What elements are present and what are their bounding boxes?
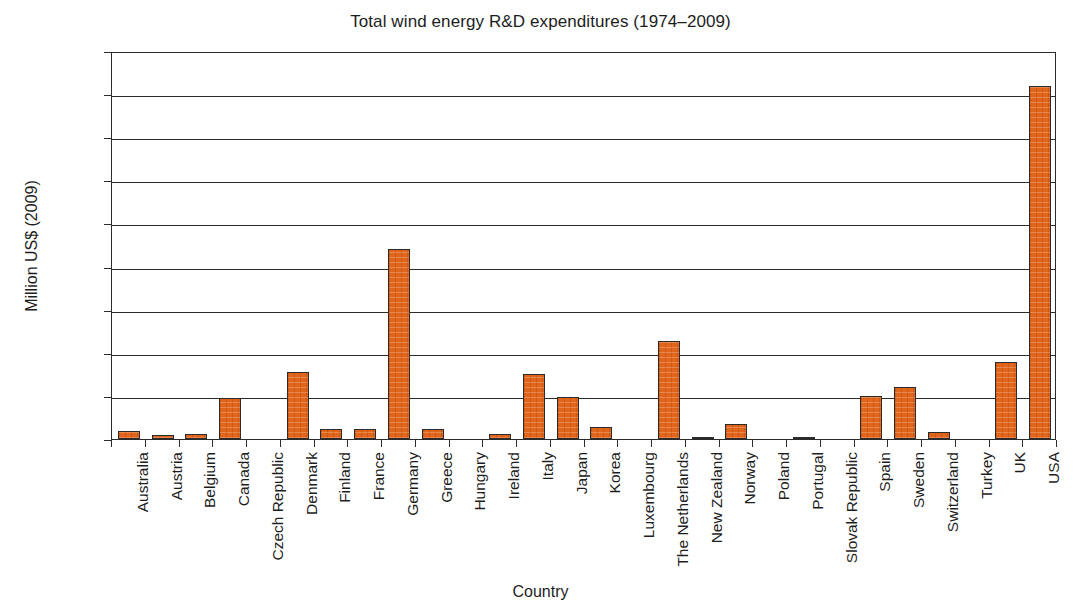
bar[interactable]	[692, 437, 714, 440]
bar-slot	[753, 53, 787, 439]
y-tick-mark	[104, 311, 111, 312]
x-tick-mark	[415, 440, 416, 447]
x-tick-label: Finland	[336, 452, 354, 602]
x-axis-title: Country	[0, 583, 1081, 601]
x-tick-mark	[1056, 440, 1057, 447]
x-tick-label: Poland	[775, 452, 793, 602]
bar[interactable]	[320, 429, 342, 439]
x-tick-mark	[212, 440, 213, 447]
x-tick-label: Austria	[168, 452, 186, 602]
x-tick-mark	[921, 440, 922, 447]
x-tick-label: Ireland	[505, 452, 523, 602]
x-tick-mark	[685, 440, 686, 447]
bar-slot	[888, 53, 922, 439]
y-tick-mark	[104, 181, 111, 182]
x-tick-label: France	[370, 452, 388, 602]
bar-slot	[450, 53, 484, 439]
x-tick-label: Korea	[606, 452, 624, 602]
y-tick-mark	[104, 397, 111, 398]
bar[interactable]	[287, 372, 309, 439]
x-tick-label: Japan	[573, 452, 591, 602]
bar[interactable]	[590, 427, 612, 440]
bar[interactable]	[523, 374, 545, 439]
x-tick-mark	[820, 440, 821, 447]
x-tick-label: UK	[1011, 452, 1029, 602]
chart-figure: Total wind energy R&D expenditures (1974…	[0, 0, 1081, 616]
bar[interactable]	[354, 429, 376, 439]
x-tick-mark	[111, 440, 112, 447]
bar[interactable]	[219, 398, 241, 439]
bar[interactable]	[995, 362, 1017, 439]
x-tick-label: Turkey	[978, 452, 996, 602]
x-tick-mark	[854, 440, 855, 447]
x-tick-label: Hungary	[471, 452, 489, 602]
bar-slot	[618, 53, 652, 439]
x-tick-mark	[516, 440, 517, 447]
x-tick-mark	[719, 440, 720, 447]
bar-slot	[416, 53, 450, 439]
chart-title: Total wind energy R&D expenditures (1974…	[0, 12, 1081, 32]
y-tick-mark	[104, 52, 111, 53]
y-tick-mark	[104, 354, 111, 355]
bar-slot	[180, 53, 214, 439]
x-tick-label: The Netherlands	[674, 452, 692, 602]
bar[interactable]	[928, 432, 950, 439]
x-tick-label: Denmark	[303, 452, 321, 602]
bar[interactable]	[557, 397, 579, 439]
x-tick-label: Slovak Republic	[843, 452, 861, 602]
bar-slot	[213, 53, 247, 439]
x-tick-mark	[887, 440, 888, 447]
bar-slot	[787, 53, 821, 439]
bar[interactable]	[658, 341, 680, 439]
bar[interactable]	[860, 396, 882, 439]
bar[interactable]	[1029, 86, 1051, 440]
bar[interactable]	[152, 435, 174, 439]
bar[interactable]	[422, 429, 444, 439]
x-tick-mark	[179, 440, 180, 447]
x-tick-label: Portugal	[809, 452, 827, 602]
bar-slot	[551, 53, 585, 439]
bar[interactable]	[388, 249, 410, 439]
x-tick-mark	[347, 440, 348, 447]
bar-slot	[855, 53, 889, 439]
bar[interactable]	[725, 424, 747, 439]
x-tick-label: Czech Republic	[269, 452, 287, 602]
x-tick-label: Germany	[404, 452, 422, 602]
bar-slot	[652, 53, 686, 439]
bar-slot	[281, 53, 315, 439]
x-tick-label: Luxembourg	[640, 452, 658, 602]
x-tick-mark	[651, 440, 652, 447]
x-tick-mark	[482, 440, 483, 447]
bar[interactable]	[489, 434, 511, 439]
x-tick-label: Greece	[438, 452, 456, 602]
x-tick-mark	[280, 440, 281, 447]
bar[interactable]	[793, 437, 815, 440]
bar-slot	[348, 53, 382, 439]
bar-slot	[922, 53, 956, 439]
x-tick-label: Belgium	[201, 452, 219, 602]
bar-slot	[483, 53, 517, 439]
bar[interactable]	[118, 431, 140, 439]
bar-slot	[247, 53, 281, 439]
x-tick-mark	[314, 440, 315, 447]
y-tick-mark	[104, 440, 111, 441]
bar-slot	[585, 53, 619, 439]
bar[interactable]	[185, 434, 207, 439]
x-tick-label: Australia	[134, 452, 152, 602]
bar[interactable]	[894, 387, 916, 439]
bar-slot	[956, 53, 990, 439]
x-tick-mark	[617, 440, 618, 447]
bar-slot	[720, 53, 754, 439]
y-axis-title: Million US$ (2009)	[23, 126, 41, 366]
x-tick-label: Canada	[235, 452, 253, 602]
y-tick-mark	[104, 224, 111, 225]
x-tick-label: Spain	[876, 452, 894, 602]
x-tick-label: USA	[1045, 452, 1063, 602]
bar-slot	[146, 53, 180, 439]
bar-slot	[1023, 53, 1057, 439]
x-tick-mark	[381, 440, 382, 447]
bar-slot	[517, 53, 551, 439]
x-tick-mark	[449, 440, 450, 447]
bar-slot	[990, 53, 1024, 439]
x-tick-mark	[752, 440, 753, 447]
